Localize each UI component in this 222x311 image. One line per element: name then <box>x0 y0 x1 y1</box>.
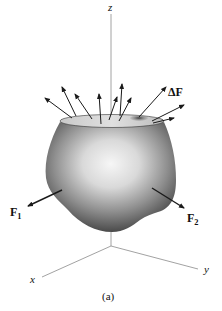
top-surface <box>60 115 164 128</box>
f2-label: F2 <box>187 212 199 228</box>
delta-f-letter: F <box>176 85 183 99</box>
coordinate-axes <box>42 232 198 277</box>
delta-symbol: Δ <box>168 85 176 99</box>
x-axis-label: x <box>30 274 35 285</box>
figure-caption: (a) <box>102 291 114 302</box>
free-body-diagram <box>0 0 222 311</box>
delta-f-label: ΔF <box>168 86 183 98</box>
area-patch <box>130 115 148 121</box>
f2-subscript: 2 <box>194 218 198 227</box>
y-axis-label: y <box>204 264 209 275</box>
f1-subscript: 1 <box>17 212 21 221</box>
z-axis-label: z <box>108 2 112 13</box>
body-shape <box>46 122 176 232</box>
f1-label: F1 <box>10 206 22 222</box>
